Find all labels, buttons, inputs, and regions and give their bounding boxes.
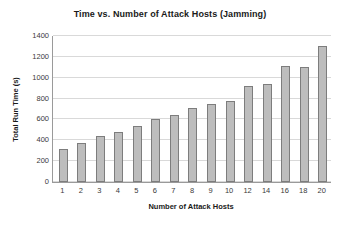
x-axis-tick: 5 — [127, 186, 146, 195]
y-axis-tick: 1000 — [23, 74, 49, 82]
bar-slot — [110, 36, 129, 182]
bar-slot — [54, 36, 73, 182]
bar — [207, 104, 216, 182]
x-axis-tick: 16 — [275, 186, 294, 195]
bar — [151, 119, 160, 182]
x-axis-tick: 14 — [257, 186, 276, 195]
bar-series — [54, 36, 332, 182]
bar — [188, 108, 197, 182]
bar — [263, 84, 272, 182]
y-axis-tick: 200 — [23, 157, 49, 165]
y-axis-tick: 400 — [23, 136, 49, 144]
bar-slot — [221, 36, 240, 182]
y-axis-tick: 1200 — [23, 53, 49, 61]
bar — [281, 66, 290, 182]
bar — [96, 136, 105, 182]
x-axis-tick: 4 — [109, 186, 128, 195]
x-axis-tick: 7 — [164, 186, 183, 195]
x-axis-title: Number of Attack Hosts — [52, 202, 330, 211]
chart-title: Time vs. Number of Attack Hosts (Jamming… — [0, 9, 340, 20]
bar-slot — [73, 36, 92, 182]
y-axis-tick: 1400 — [23, 32, 49, 40]
x-axis-tick: 18 — [294, 186, 313, 195]
y-axis-tick: 600 — [23, 115, 49, 123]
plot-area — [52, 36, 331, 183]
bar — [300, 67, 309, 182]
y-axis-title-label: Total Run Time (s) — [11, 77, 20, 142]
bar — [133, 126, 142, 182]
bar — [170, 115, 179, 182]
x-axis-tick: 6 — [146, 186, 165, 195]
x-axis-tick: 3 — [90, 186, 109, 195]
bar-slot — [202, 36, 221, 182]
y-axis-tick-labels: 0200400600800100012001400 — [20, 36, 49, 182]
bar — [244, 86, 253, 182]
bar — [114, 132, 123, 182]
x-axis-tick: 20 — [312, 186, 331, 195]
bar-slot — [128, 36, 147, 182]
y-axis-tick: 0 — [23, 178, 49, 186]
x-axis-tick: 1 — [53, 186, 72, 195]
bar-slot — [91, 36, 110, 182]
bar — [59, 149, 68, 182]
bar-slot — [239, 36, 258, 182]
bar — [318, 46, 327, 182]
bar-slot — [147, 36, 166, 182]
bar — [226, 101, 235, 182]
bar-chart: Time vs. Number of Attack Hosts (Jamming… — [0, 0, 340, 226]
x-axis-tick: 10 — [220, 186, 239, 195]
x-axis-tick-labels: 123456789101214161820 — [53, 186, 331, 195]
x-axis-tick: 9 — [201, 186, 220, 195]
bar-slot — [165, 36, 184, 182]
bar-slot — [313, 36, 332, 182]
x-axis-tick: 12 — [238, 186, 257, 195]
bar-slot — [184, 36, 203, 182]
bar-slot — [258, 36, 277, 182]
x-axis-tick: 8 — [183, 186, 202, 195]
y-axis-tick: 800 — [23, 95, 49, 103]
bar — [77, 143, 86, 182]
bar-slot — [276, 36, 295, 182]
x-axis-tick: 2 — [72, 186, 91, 195]
bar-slot — [295, 36, 314, 182]
